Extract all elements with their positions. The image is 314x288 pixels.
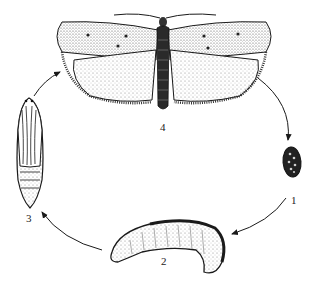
life-cycle-diagram: 4 1 2 3 <box>0 0 314 288</box>
antenna-left <box>114 14 160 18</box>
arrow-egg-to-larva <box>232 198 286 234</box>
moth-body <box>157 26 169 109</box>
moth-head <box>159 17 167 27</box>
arrow-pupa-to-adult <box>34 72 60 96</box>
arrow-adult-to-egg <box>258 78 288 140</box>
label-larva: 2 <box>161 255 167 267</box>
right-hindwing <box>170 50 259 101</box>
label-egg: 1 <box>291 194 297 206</box>
egg <box>282 146 303 177</box>
pupa <box>17 98 43 208</box>
label-pupa: 3 <box>26 212 32 224</box>
adult-moth <box>57 14 271 109</box>
larva <box>111 221 224 273</box>
antenna-right <box>166 14 216 18</box>
label-adult: 4 <box>160 121 166 133</box>
arrow-larva-to-pupa <box>42 212 102 250</box>
